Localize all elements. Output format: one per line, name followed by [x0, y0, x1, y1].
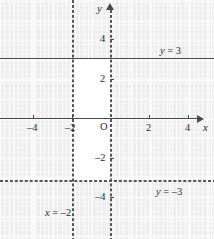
x-tick-negative-2	[72, 115, 73, 119]
y-tick-label-negative-2: –2	[95, 153, 106, 164]
y-tick-negative-4	[110, 197, 114, 198]
coordinate-plane-figure: y = 3 y = –3 x = –2 y x –4 –2 O 2 4 4 2 …	[0, 0, 214, 239]
value-y-equals-negative-3: –3	[172, 186, 183, 197]
x-tick-label-negative-2: –2	[65, 123, 76, 134]
y-tick-label-negative-4: –4	[95, 192, 106, 203]
y-tick-positive-4	[110, 39, 114, 40]
origin-label: O	[100, 122, 108, 133]
x-tick-label-positive-2: 2	[146, 123, 151, 134]
y-axis-line	[110, 10, 112, 239]
x-axis-line	[0, 118, 199, 119]
x-tick-positive-2	[149, 115, 150, 119]
x-axis-label: x	[203, 122, 208, 133]
y-tick-label-positive-2: 2	[100, 74, 105, 85]
y-tick-positive-2	[110, 79, 114, 80]
label-x-equals-negative-2: x = –2	[45, 208, 71, 219]
x-tick-positive-4	[188, 115, 189, 119]
value-y-equals-3: 3	[176, 45, 181, 56]
value-x-equals-negative-2: –2	[61, 207, 72, 218]
y-axis-label: y	[97, 3, 102, 14]
y-tick-label-positive-4: 4	[100, 34, 105, 45]
line-y-equals-negative-3	[0, 180, 214, 182]
y-axis-arrow-icon	[106, 3, 114, 10]
label-y-equals-3: y = 3	[160, 46, 181, 57]
label-y-equals-negative-3: y = –3	[156, 187, 182, 198]
y-tick-negative-2	[110, 158, 114, 159]
x-tick-label-positive-4: 4	[185, 123, 190, 134]
line-x-equals-negative-2	[72, 0, 74, 239]
line-y-equals-3	[0, 58, 214, 59]
x-tick-negative-4	[33, 115, 34, 119]
x-tick-label-negative-4: –4	[27, 123, 38, 134]
